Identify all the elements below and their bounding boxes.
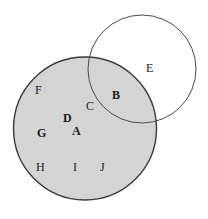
region-label-a: A	[72, 125, 81, 137]
large-shaded-circle	[14, 57, 157, 200]
region-label-d: D	[63, 112, 72, 124]
region-label-c: C	[86, 100, 94, 112]
region-label-f: F	[35, 84, 42, 96]
region-label-j: J	[100, 161, 105, 173]
region-label-g: G	[37, 127, 46, 139]
region-label-b: B	[112, 89, 120, 101]
venn-diagram-canvas	[0, 0, 208, 219]
venn-diagram-figure: FCBEDGAHIJ	[0, 0, 208, 219]
region-label-e: E	[146, 62, 153, 74]
region-label-i: I	[73, 161, 77, 173]
region-label-h: H	[36, 161, 45, 173]
